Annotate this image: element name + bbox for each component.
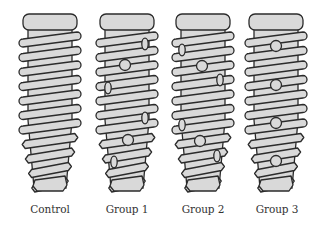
hole-1 [271, 41, 282, 52]
hole-6 [111, 156, 117, 168]
hole-4 [271, 156, 282, 167]
label-control: Control [15, 203, 85, 215]
label-group-3: Group 3 [242, 203, 312, 215]
hole-2 [271, 80, 282, 91]
hole-2 [120, 60, 131, 71]
implant-3 [245, 14, 307, 192]
hole-6 [214, 150, 220, 162]
hole-3 [105, 82, 111, 94]
hole-1 [179, 44, 185, 56]
implant-1 [96, 14, 158, 192]
implant-2 [172, 14, 234, 192]
hole-2 [197, 61, 208, 72]
hole-1 [142, 38, 148, 50]
implant-0 [19, 14, 81, 192]
hole-4 [142, 112, 148, 124]
label-group-1: Group 1 [92, 203, 162, 215]
label-group-2: Group 2 [168, 203, 238, 215]
hole-3 [217, 74, 223, 86]
implant-drawing [0, 0, 324, 230]
hole-5 [195, 136, 206, 147]
hole-3 [271, 118, 282, 129]
hole-4 [179, 119, 185, 131]
hole-5 [123, 135, 134, 146]
implant-diagram: Control Group 1 Group 2 Group 3 [0, 0, 324, 230]
